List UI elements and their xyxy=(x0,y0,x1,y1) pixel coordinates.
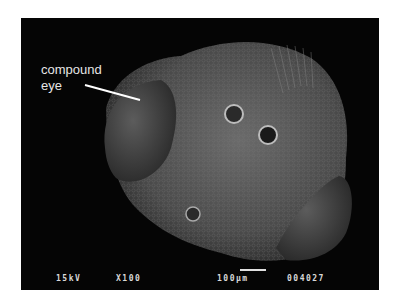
voltage-readout: 15kV xyxy=(56,274,81,286)
small-socket xyxy=(186,207,200,221)
insect-head-specimen xyxy=(21,18,379,290)
annotation-label-eye: eye xyxy=(41,78,62,93)
annotation-label-compound: compound xyxy=(41,62,102,77)
scale-bar xyxy=(240,269,266,271)
scale-readout: 100µm xyxy=(217,274,249,286)
image-number: 004027 xyxy=(287,274,325,286)
magnification-readout: X100 xyxy=(116,274,141,286)
antenna-socket-upper xyxy=(225,105,243,123)
micrograph-frame: compound eye 15kV X100 100µm 004027 xyxy=(21,18,379,290)
antenna-socket-lower xyxy=(259,126,277,144)
